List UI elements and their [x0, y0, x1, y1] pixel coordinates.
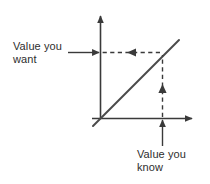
- value-you-know-label: Value you know: [137, 148, 186, 174]
- vertical-readout-arrowhead-icon: [158, 84, 166, 93]
- value-you-want-label-line2: want: [13, 53, 62, 66]
- interpolation-diagram: Value you want Value you know: [0, 0, 210, 184]
- value-you-want-label-line1: Value you: [13, 40, 62, 53]
- value-you-know-label-line1: Value you: [137, 148, 186, 161]
- value-you-want-label: Value you want: [13, 40, 62, 66]
- horizontal-readout-arrowhead-icon: [127, 48, 136, 56]
- value-you-know-label-line2: know: [137, 161, 186, 174]
